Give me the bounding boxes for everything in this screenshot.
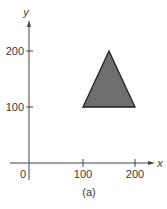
x-tick-label-200: 200 bbox=[126, 168, 144, 180]
coordinate-diagram: y x 200 100 0 100 200 (a) bbox=[0, 0, 167, 209]
origin-label: 0 bbox=[20, 168, 26, 180]
x-axis-label: x bbox=[156, 157, 163, 169]
y-axis-label: y bbox=[22, 6, 30, 18]
x-tick-label-100: 100 bbox=[74, 168, 92, 180]
figure-caption: (a) bbox=[82, 186, 95, 198]
x-axis-arrow-icon bbox=[148, 161, 155, 165]
y-tick-label-200: 200 bbox=[6, 45, 24, 57]
triangle-shape bbox=[83, 51, 135, 107]
y-tick-label-100: 100 bbox=[6, 101, 24, 113]
y-axis-arrow-icon bbox=[27, 20, 31, 27]
